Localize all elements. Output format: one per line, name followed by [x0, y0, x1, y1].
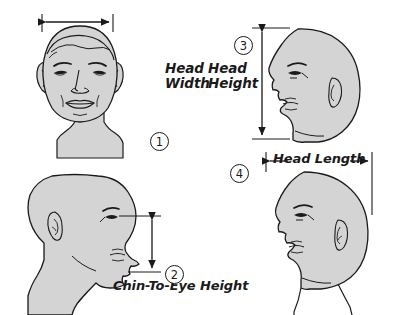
callout-number-2: 2: [165, 265, 184, 284]
label-head-width-line1: Head: [165, 61, 210, 76]
label-head-height-line2: Height: [208, 76, 258, 91]
callout-number-1: 1: [150, 132, 169, 151]
label-head-width: Head Width: [165, 61, 210, 91]
callout-number-4: 4: [230, 164, 249, 183]
label-head-height: Head Height: [208, 61, 258, 91]
head-measurement-diagram: Head Width Head Height Head Length Chin-…: [0, 0, 404, 315]
label-head-height-line1: Head: [208, 61, 258, 76]
label-head-length: Head Length: [273, 152, 365, 167]
callout-number-3: 3: [234, 36, 253, 55]
label-head-width-line2: Width: [165, 76, 210, 91]
